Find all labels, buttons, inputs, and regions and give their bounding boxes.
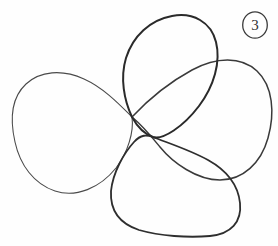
sketch-canvas: 3 [0, 0, 278, 246]
page-number-badge: 3 [238, 8, 272, 42]
page-number-text: 3 [238, 8, 272, 42]
right-petal-stroke [132, 60, 272, 180]
top-petal-stroke [123, 15, 217, 137]
bottom-petal-stroke [111, 136, 240, 237]
four-petal-drawing [0, 0, 278, 246]
